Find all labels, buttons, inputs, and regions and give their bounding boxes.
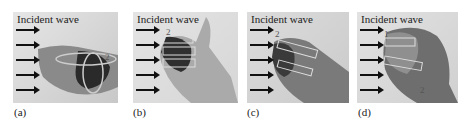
panel-label-d: (d) [358, 106, 371, 118]
panel-label-a: (a) [14, 106, 26, 118]
arrow-icon [16, 74, 38, 76]
arrow-icon [136, 74, 158, 76]
annotation-2: 2 [105, 52, 110, 62]
arrow-icon [16, 89, 38, 91]
hand-image [151, 17, 238, 103]
panel-title: Incident wave [137, 13, 199, 25]
incident-arrows [250, 29, 272, 103]
arrow-icon [250, 44, 272, 46]
arrow-icon [136, 44, 158, 46]
arrow-icon [360, 44, 382, 46]
hand-image [269, 32, 349, 103]
incident-arrows [136, 29, 158, 103]
arrow-icon [136, 59, 158, 61]
arrow-icon [136, 89, 158, 91]
arrow-icon [360, 29, 382, 31]
annotation-2: 2 [275, 29, 280, 39]
annotation-2: 2 [420, 85, 425, 95]
hand-image [38, 37, 118, 97]
panel-a: 2 Incident wave [13, 12, 118, 103]
panel-label-c: (c) [247, 106, 259, 118]
panel-title: Incident wave [17, 13, 79, 25]
arrow-icon [16, 44, 38, 46]
arrow-icon [360, 59, 382, 61]
arrow-icon [136, 29, 158, 31]
incident-arrows [360, 29, 382, 103]
annotation-1: 1 [384, 29, 389, 39]
annotation-2: 2 [166, 27, 171, 37]
panel-title: Incident wave [361, 13, 423, 25]
hand-image [377, 24, 458, 103]
panel-title: Incident wave [251, 13, 313, 25]
arrow-icon [250, 74, 272, 76]
arrow-icon [16, 59, 38, 61]
arrow-icon [16, 29, 38, 31]
panel-b: 2 Incident wave [133, 12, 238, 103]
panel-label-b: (b) [133, 106, 146, 118]
arrow-icon [250, 89, 272, 91]
arrow-icon [250, 59, 272, 61]
arrow-icon [360, 74, 382, 76]
arrow-icon [250, 29, 272, 31]
incident-arrows [16, 29, 38, 103]
panel-d: 1 2 Incident wave [357, 12, 458, 103]
panel-c: 2 Incident wave [247, 12, 349, 103]
arrow-icon [360, 89, 382, 91]
